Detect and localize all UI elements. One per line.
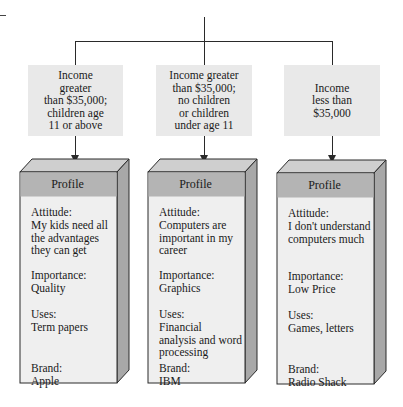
uses-value: Financial analysis and word processing: [159, 321, 249, 359]
importance-label: Importance:: [288, 270, 378, 283]
uses-label: Uses:: [31, 308, 121, 321]
arrow-shaft-3: [332, 136, 333, 156]
brand-label: Brand:: [159, 362, 249, 375]
brand-value: IBM: [159, 375, 249, 388]
brand-label: Brand:: [31, 362, 121, 375]
segment-box-2: Income greater than $35,000; no children…: [156, 65, 252, 136]
attitude-value: I don't understand computers much: [288, 220, 378, 245]
branch-drop-middle: [204, 41, 205, 65]
branch-drop-left: [75, 41, 76, 65]
profile-card-2: Profile Attitude: Computers are importan…: [147, 158, 257, 383]
profile-header: Profile: [277, 174, 372, 197]
importance-value: Graphics: [159, 282, 249, 295]
uses-value: Games, letters: [288, 322, 378, 335]
segment-label: Income greater than $35,000; no children…: [169, 69, 238, 132]
uses-value: Term papers: [31, 321, 121, 334]
importance-label: Importance:: [159, 269, 249, 282]
arrow-shaft-1: [75, 136, 76, 156]
root-connector: [204, 17, 205, 42]
attitude-label: Attitude:: [288, 207, 378, 220]
importance-value: Low Price: [288, 283, 378, 296]
attitude-value: My kids need all the advantages they can…: [31, 219, 121, 257]
segment-label: Income less than $35,000: [312, 82, 352, 120]
uses-label: Uses:: [159, 308, 249, 321]
attitude-label: Attitude:: [31, 206, 121, 219]
segment-label: Income greater than $35,000; children ag…: [44, 69, 107, 132]
attitude-label: Attitude:: [159, 206, 249, 219]
segment-box-3: Income less than $35,000: [284, 65, 380, 136]
brand-value: Radio Shack: [288, 376, 378, 389]
importance-value: Quality: [31, 282, 121, 295]
brand-label: Brand:: [288, 363, 378, 376]
importance-label: Importance:: [31, 269, 121, 282]
attitude-value: Computers are important in my career: [159, 219, 249, 257]
branch-drop-right: [332, 41, 333, 65]
uses-label: Uses:: [288, 309, 378, 322]
brand-value: Apple: [31, 375, 121, 388]
profile-header: Profile: [148, 173, 243, 196]
margin-dash: [0, 15, 6, 16]
segment-box-1: Income greater than $35,000; children ag…: [28, 65, 123, 136]
profile-header: Profile: [20, 173, 115, 196]
profile-card-3: Profile Attitude: I don't understand com…: [276, 159, 386, 384]
profile-card-1: Profile Attitude: My kids need all the a…: [19, 158, 129, 383]
arrow-shaft-2: [204, 136, 205, 156]
